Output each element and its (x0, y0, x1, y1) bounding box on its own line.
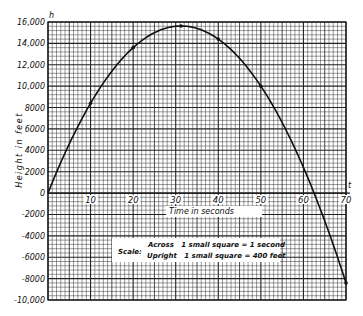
y-axis-title-text: Height in feet (15, 112, 24, 188)
y-tick-label: 0 (40, 189, 45, 198)
y-tick-label: -8000 (22, 275, 45, 284)
y-tick-label: 12,000 (17, 61, 45, 70)
x-axis-symbol: t (348, 181, 352, 190)
height-vs-time-chart: 16,00014,00012,00010,0008000600040002000… (0, 0, 363, 316)
y-tick-label: 16,000 (17, 18, 45, 27)
y-tick-label: 14,000 (17, 39, 45, 48)
y-tick-label: 6000 (25, 125, 45, 134)
x-tick-label: 40 (213, 195, 224, 205)
scale-line-upright: Upright 1 small square = 400 feet (147, 252, 286, 260)
scale-annotation: Scale: Across 1 small square = 1 second … (112, 238, 286, 262)
x-tick-label: 30 (170, 195, 181, 205)
y-axis-title: Height in feet (15, 112, 24, 188)
x-tick-label: 10 (85, 195, 96, 205)
y-tick-label: 10,000 (17, 82, 45, 91)
x-tick-label: 70 (341, 195, 352, 205)
y-tick-label: 4000 (25, 146, 45, 155)
y-tick-label: 2000 (25, 168, 45, 177)
x-tick-label: 60 (298, 195, 309, 205)
x-axis-tick-labels: 10203040506070 (84, 195, 353, 205)
y-axis-symbol: h (49, 11, 54, 20)
y-tick-label: -4000 (22, 232, 45, 241)
x-axis-title: Time in seconds (166, 206, 262, 217)
data-point (344, 281, 348, 285)
y-tick-label: -10,000 (14, 296, 45, 305)
x-tick-label: 50 (255, 195, 266, 205)
x-axis-title-text: Time in seconds (169, 207, 234, 216)
y-tick-label: -2000 (22, 210, 45, 219)
x-tick-label: 20 (128, 195, 139, 205)
scale-line-across: Across 1 small square = 1 second (147, 241, 286, 249)
data-point (131, 46, 135, 50)
data-point (216, 37, 220, 41)
data-point (89, 101, 93, 105)
y-tick-label: -6000 (22, 253, 45, 262)
data-point (179, 24, 183, 28)
scale-label: Scale: (118, 248, 142, 256)
y-tick-label: 8000 (25, 104, 45, 113)
data-point (259, 84, 263, 88)
